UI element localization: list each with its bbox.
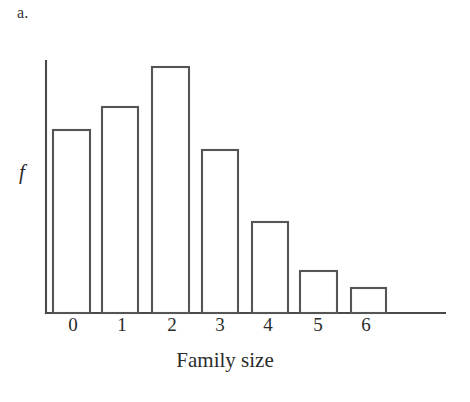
bar-0 <box>53 130 90 313</box>
bar-6 <box>351 288 386 313</box>
x-tick-label-0: 0 <box>53 314 93 336</box>
x-tick-label-6: 6 <box>346 314 386 336</box>
x-tick-label-2: 2 <box>152 314 192 336</box>
y-axis-label: f <box>19 160 25 185</box>
bar-3 <box>202 150 238 313</box>
x-tick-label-3: 3 <box>200 314 240 336</box>
bars-group <box>53 67 386 313</box>
bar-2 <box>152 67 189 313</box>
bar-1 <box>102 107 138 313</box>
x-tick-label-5: 5 <box>298 314 338 336</box>
x-tick-label-4: 4 <box>248 314 288 336</box>
histogram-plot <box>0 0 470 402</box>
bar-4 <box>252 222 288 313</box>
histogram-figure: a. f 0 1 2 3 4 5 6 Family size <box>0 0 470 402</box>
x-tick-label-1: 1 <box>102 314 142 336</box>
bar-5 <box>300 271 337 313</box>
x-axis-title: Family size <box>0 348 450 373</box>
